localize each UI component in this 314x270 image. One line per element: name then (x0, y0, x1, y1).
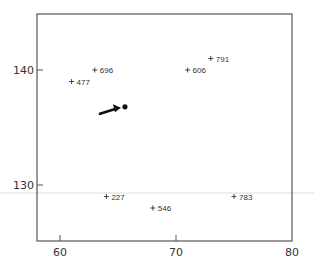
data-points: 696477791606227546783 (69, 55, 253, 214)
data-point: 227 (104, 193, 125, 202)
data-point: 477 (69, 78, 90, 87)
point-label: 791 (216, 55, 230, 64)
x-tick-label: 80 (285, 246, 299, 259)
arrow-icon (100, 104, 121, 114)
data-point: 546 (150, 204, 171, 213)
highlight-marker (100, 104, 128, 114)
data-point: 696 (92, 66, 113, 75)
y-tick-label: 130 (13, 179, 34, 192)
point-label: 696 (100, 66, 114, 75)
point-label: 227 (111, 193, 125, 202)
point-label: 477 (77, 78, 91, 87)
data-point: 783 (232, 193, 253, 202)
highlight-dot (122, 104, 127, 109)
point-label: 783 (239, 193, 253, 202)
x-tick-label: 70 (169, 246, 183, 259)
data-point: 606 (185, 66, 206, 75)
point-label: 546 (158, 204, 172, 213)
y-tick-label: 140 (13, 64, 34, 77)
scatter-chart: 607080130140 696477791606227546783 (0, 0, 314, 270)
point-label: 606 (193, 66, 207, 75)
axis-ticks: 607080130140 (13, 64, 299, 259)
x-tick-label: 60 (53, 246, 67, 259)
data-point: 791 (208, 55, 229, 64)
